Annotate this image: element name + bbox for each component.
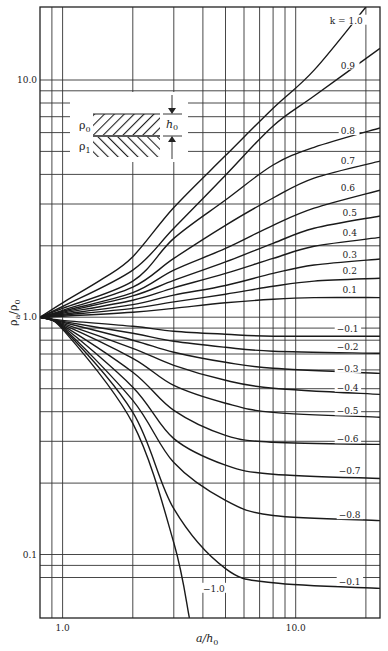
curve-label: −0.8: [339, 510, 361, 520]
curve-label: 0.3: [343, 250, 358, 260]
curve-label: 0.6: [341, 183, 356, 193]
curve-label: 0.1: [343, 285, 357, 295]
curve-label: −0.2: [337, 342, 359, 352]
curve-label: −0.1: [339, 577, 361, 587]
curve-label: −0.4: [337, 383, 359, 393]
curve-label: 0.4: [343, 228, 358, 238]
curve-label: −0.3: [337, 364, 359, 374]
curve-label: 0.5: [343, 208, 358, 218]
curve-label: −1.0: [203, 584, 225, 594]
y-tick-label: 1.0: [23, 312, 38, 322]
curve-label: −0.6: [337, 434, 359, 444]
curve-label: −0.5: [337, 406, 359, 416]
curve-label: 0.2: [343, 266, 357, 276]
x-tick-label: 1.0: [55, 623, 70, 633]
curve-label: k = 1.0: [330, 16, 363, 26]
curve-label: 0.9: [341, 61, 356, 71]
curve-label: −0.1: [337, 324, 359, 334]
curve-label: 0.8: [341, 126, 356, 136]
upper-layer-hatch: [93, 114, 160, 135]
curve-label: −0.7: [339, 466, 361, 476]
lower-layer-hatch: [93, 137, 160, 157]
x-tick-label: 10.0: [286, 623, 306, 633]
y-tick-label: 0.1: [23, 550, 37, 560]
apparent-resistivity-chart: k = 1.00.90.80.70.60.50.40.30.20.1−0.1−0…: [0, 0, 388, 651]
y-tick-label: 10.0: [17, 75, 37, 85]
curve-label: 0.7: [341, 156, 356, 166]
